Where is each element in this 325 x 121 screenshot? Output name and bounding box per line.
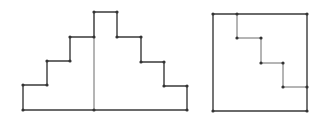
diagram-canvas [0,0,325,121]
vertex-dot [305,109,308,112]
vertex-dot [21,108,24,111]
vertex-dot [185,84,188,87]
square-staircase-figure [211,12,308,112]
vertex-dot [305,85,308,88]
vertex-dot [115,10,118,13]
vertex-dot [211,12,214,15]
staircase-line [237,14,307,87]
stepped-pyramid-figure [21,10,188,111]
vertex-dot [45,83,48,86]
vertex-dot [68,59,71,62]
vertex-dot [185,108,188,111]
vertex-dot [281,85,284,88]
vertex-dot [115,35,118,38]
vertex-dot [139,60,142,63]
vertex-dot [45,59,48,62]
vertex-dot [305,12,308,15]
vertex-dot [139,35,142,38]
vertex-dot [162,60,165,63]
vertex-dot [162,84,165,87]
vertex-dot [281,61,284,64]
vertex-dot [92,108,95,111]
pyramid-vertices [21,10,188,111]
vertex-dot [235,36,238,39]
vertex-dot [92,35,95,38]
vertex-dot [235,12,238,15]
vertex-dot [211,109,214,112]
vertex-dot [259,61,262,64]
vertex-dot [21,83,24,86]
vertex-dot [68,35,71,38]
square-vertices [211,12,308,112]
vertex-dot [92,10,95,13]
vertex-dot [259,36,262,39]
